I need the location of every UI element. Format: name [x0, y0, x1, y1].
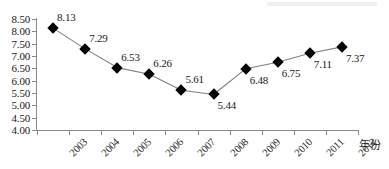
y-axis-tick: [32, 19, 37, 20]
data-point-label: 7.37: [346, 53, 364, 64]
x-axis-tick: [326, 130, 327, 135]
y-axis-tick-label: 7.50: [12, 38, 30, 49]
x-axis-tick-label: 2006: [164, 137, 186, 159]
x-axis-tick-label: 2010: [293, 137, 315, 159]
y-axis-tick-label: 4.00: [12, 125, 30, 136]
y-axis-tick-label: 8.00: [12, 26, 30, 37]
x-axis-tick: [165, 130, 166, 135]
x-axis-title: 年份: [359, 140, 381, 151]
y-axis-tick-label: 4.50: [12, 112, 30, 123]
data-point-label: 7.11: [314, 59, 332, 70]
y-axis-tick-label: 5.00: [12, 100, 30, 111]
x-axis-tick: [230, 130, 231, 135]
x-axis-tick-label: 2003: [68, 137, 90, 159]
x-axis-tick: [69, 130, 70, 135]
y-axis-tick: [32, 105, 37, 106]
x-axis-tick: [37, 130, 38, 135]
y-axis-tick: [32, 31, 37, 32]
x-axis-tick-label: 2004: [100, 137, 122, 159]
x-axis-tick-label: 2011: [325, 137, 346, 158]
data-point-label: 8.13: [57, 12, 75, 23]
data-point-label: 7.29: [89, 33, 107, 44]
plot-area: 8.508.007.507.006.506.005.505.004.504.00…: [37, 19, 358, 130]
x-axis-tick-label: 2009: [261, 137, 283, 159]
x-axis-tick: [101, 130, 102, 135]
x-axis-tick: [262, 130, 263, 135]
y-axis-tick: [32, 93, 37, 94]
x-axis-tick: [198, 130, 199, 135]
y-axis-tick: [32, 68, 37, 69]
x-axis-tick-label: 2007: [196, 137, 218, 159]
data-point-label: 5.44: [218, 100, 236, 111]
x-axis-tick: [358, 130, 359, 135]
y-axis-tick: [32, 56, 37, 57]
data-point-label: 5.61: [185, 74, 203, 85]
y-axis-tick-label: 6.50: [12, 63, 30, 74]
y-axis-tick-label: 6.00: [12, 75, 30, 86]
data-point-label: 6.26: [153, 58, 171, 69]
y-axis-tick: [32, 81, 37, 82]
y-axis-tick-label: 7.00: [12, 51, 30, 62]
line-chart: 8.508.007.507.006.506.005.505.004.504.00…: [0, 0, 389, 169]
data-point-label: 6.48: [250, 75, 268, 86]
y-axis-tick: [32, 44, 37, 45]
x-axis-tick: [133, 130, 134, 135]
y-axis-tick: [32, 118, 37, 119]
data-point-label: 6.75: [282, 68, 300, 79]
x-axis-tick: [294, 130, 295, 135]
y-axis-tick-label: 8.50: [12, 14, 30, 25]
x-axis-tick-label: 2005: [132, 137, 154, 159]
x-axis-tick-label: 2008: [228, 137, 250, 159]
scan-artifact: [267, 2, 377, 6]
data-point-label: 6.53: [121, 52, 139, 63]
y-axis-tick-label: 5.50: [12, 88, 30, 99]
